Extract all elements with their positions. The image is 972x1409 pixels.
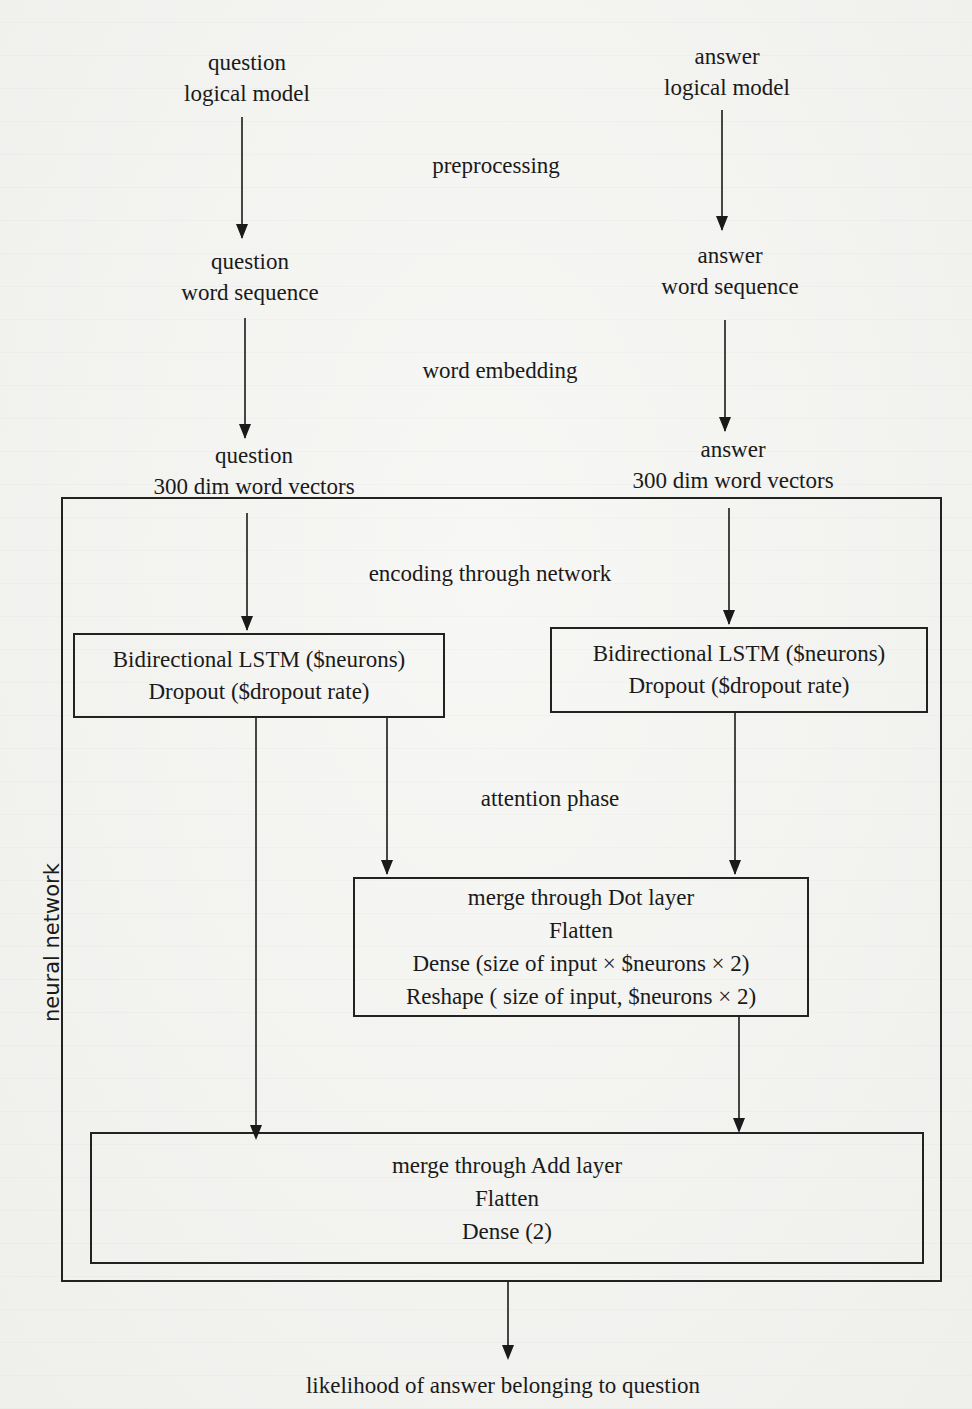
box-line: Dropout ($dropout rate): [629, 670, 850, 702]
add-merge-box: merge through Add layer Flatten Dense (2…: [90, 1132, 924, 1264]
label-line: logical model: [184, 78, 310, 109]
label-line: word sequence: [181, 277, 318, 308]
lstm-box-answer: Bidirectional LSTM ($neurons) Dropout ($…: [550, 627, 928, 713]
box-line: Flatten: [549, 914, 613, 947]
box-line: merge through Dot layer: [468, 881, 694, 914]
label-line: question: [184, 47, 310, 78]
attention-phase-label: attention phase: [481, 783, 620, 814]
label-line: answer: [632, 434, 833, 465]
label-line: answer: [661, 240, 798, 271]
label-line: question: [153, 440, 354, 471]
label-line: question: [181, 246, 318, 277]
question-word-vectors: question 300 dim word vectors: [153, 440, 354, 502]
box-line: Bidirectional LSTM ($neurons): [593, 638, 886, 670]
box-line: Dense (size of input × $neurons × 2): [412, 947, 749, 980]
question-logical-model: question logical model: [184, 47, 310, 109]
neural-network-label: neural network: [40, 863, 64, 1022]
dot-merge-box: merge through Dot layer Flatten Dense (s…: [353, 877, 809, 1017]
encoding-label: encoding through network: [369, 558, 612, 589]
question-word-sequence: question word sequence: [181, 246, 318, 308]
label-line: 300 dim word vectors: [632, 465, 833, 496]
answer-word-sequence: answer word sequence: [661, 240, 798, 302]
label-line: answer: [664, 41, 790, 72]
box-line: Reshape ( size of input, $neurons × 2): [406, 980, 756, 1013]
preprocessing-label: preprocessing: [432, 150, 560, 181]
answer-logical-model: answer logical model: [664, 41, 790, 103]
word-embedding-label: word embedding: [422, 355, 577, 386]
label-line: logical model: [664, 72, 790, 103]
box-line: Dense (2): [462, 1215, 552, 1248]
lstm-box-question: Bidirectional LSTM ($neurons) Dropout ($…: [73, 633, 445, 718]
box-line: Bidirectional LSTM ($neurons): [113, 644, 406, 676]
box-line: Flatten: [475, 1182, 539, 1215]
label-line: word sequence: [661, 271, 798, 302]
output-label: likelihood of answer belonging to questi…: [306, 1370, 700, 1401]
box-line: Dropout ($dropout rate): [149, 676, 370, 708]
box-line: merge through Add layer: [392, 1149, 622, 1182]
answer-word-vectors: answer 300 dim word vectors: [632, 434, 833, 496]
